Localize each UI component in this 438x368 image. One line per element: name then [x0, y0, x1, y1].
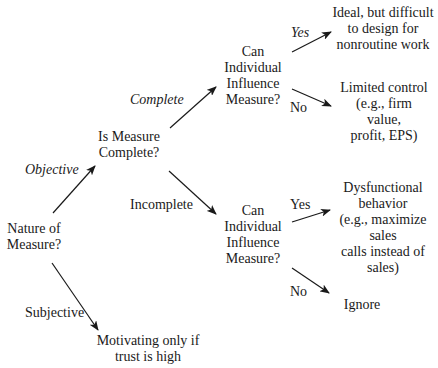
- node-dysfunctional-outcome: Dysfunctional behavior (e.g., maximize s…: [335, 180, 431, 276]
- edge-label-objective: Objective: [25, 162, 79, 178]
- node-motivating-outcome: Motivating only if trust is high: [92, 333, 204, 365]
- node-ignore-outcome: Ignore: [338, 297, 386, 313]
- node-can-individual-influence-bottom: Can Individual Influence Measure?: [220, 203, 286, 267]
- node-can-individual-influence-top: Can Individual Influence Measure?: [220, 44, 286, 108]
- edge-label-yes-top: Yes: [291, 25, 309, 41]
- edge-label-no-top: No: [290, 100, 307, 116]
- edge-label-incomplete: Incomplete: [130, 197, 193, 213]
- edge-label-subjective: Subjective: [25, 305, 84, 321]
- edge-label-complete: Complete: [130, 92, 184, 108]
- node-limited-control-outcome: Limited control (e.g., firm value, profi…: [336, 80, 432, 144]
- node-ideal-outcome: Ideal, but difficult to design for nonro…: [330, 5, 436, 53]
- node-nature-of-measure: Nature of Measure?: [2, 221, 66, 253]
- edge-label-no-bottom: No: [290, 284, 307, 300]
- node-is-measure-complete: Is Measure Complete?: [90, 129, 168, 161]
- edge-label-yes-bottom: Yes: [290, 197, 310, 213]
